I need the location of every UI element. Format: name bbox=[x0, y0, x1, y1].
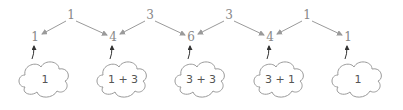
cloud-2-label: 1 + 3 bbox=[108, 73, 138, 86]
sum-number-4: 4 bbox=[266, 30, 274, 44]
top-number-4: 1 bbox=[303, 8, 311, 22]
cloud-4-label: 3 + 1 bbox=[265, 73, 295, 86]
sum-number-3: 6 bbox=[187, 30, 195, 44]
sum-number-1: 1 bbox=[31, 30, 39, 44]
sum-number-2: 4 bbox=[109, 30, 117, 44]
cloud-5-label: 1 bbox=[355, 73, 362, 86]
top-number-1: 1 bbox=[67, 8, 75, 22]
cloud-1-label: 1 bbox=[42, 73, 49, 86]
cloud-5: 1 bbox=[332, 62, 381, 97]
sum-number-5: 1 bbox=[344, 30, 352, 44]
cloud-3-label: 3 + 3 bbox=[186, 73, 216, 86]
cloud-4: 3 + 1 bbox=[254, 62, 303, 97]
cloud-1: 1 bbox=[19, 62, 68, 97]
upward-arrows bbox=[32, 46, 347, 59]
top-number-2: 3 bbox=[146, 8, 154, 22]
pascal-sum-diagram: 1 3 3 1 1 4 6 4 1 1 1 + 3 3 + 3 3 bbox=[0, 0, 403, 110]
cloud-3: 3 + 3 bbox=[175, 62, 224, 97]
top-number-3: 3 bbox=[225, 8, 233, 22]
cloud-2: 1 + 3 bbox=[97, 62, 146, 97]
